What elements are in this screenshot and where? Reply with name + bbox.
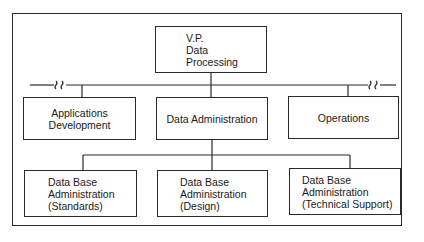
node-label: Data Administration [166, 113, 257, 125]
node-label: Data Base Administration (Standards) [48, 176, 115, 212]
node-applications-development: Applications Development [23, 97, 136, 140]
node-dba-standards: Data Base Administration (Standards) [24, 170, 137, 217]
node-label: Data Base Administration (Technical Supp… [302, 174, 392, 210]
node-operations: Operations [288, 96, 399, 139]
node-label: Data Base Administration (Design) [180, 176, 247, 212]
node-dba-design: Data Base Administration (Design) [157, 170, 268, 217]
node-label: Operations [318, 112, 369, 124]
node-label: V.P. Data Processing [186, 32, 238, 68]
node-dba-technical-support: Data Base Administration (Technical Supp… [289, 168, 401, 215]
node-label: Applications Development [49, 107, 111, 131]
node-vp-data-processing: V.P. Data Processing [155, 26, 267, 73]
node-data-administration: Data Administration [156, 97, 268, 140]
